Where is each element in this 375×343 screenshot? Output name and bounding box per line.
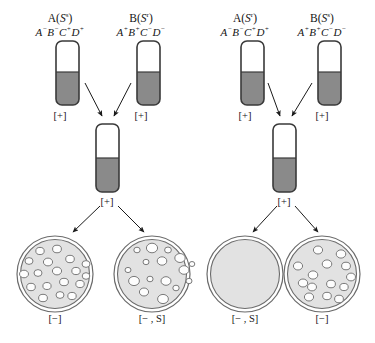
petri-dish-right-1 bbox=[207, 236, 283, 312]
mixing-tube-left bbox=[96, 124, 119, 196]
arrow-right-a-to-mix bbox=[268, 83, 280, 116]
petri-dish-right-2 bbox=[284, 236, 360, 312]
diagram-graphics bbox=[0, 0, 375, 343]
arrow-left-b-to-mix bbox=[114, 83, 131, 116]
culture-tube-right-b bbox=[318, 41, 341, 106]
figure-canvas: A(Ss) A−B−C+D+ B(Sr) A+B+C−D− A(Sr) A−B−… bbox=[0, 0, 375, 343]
mixing-tube-right bbox=[273, 124, 296, 196]
arrow-mix-left-to-plate-1 bbox=[73, 206, 100, 232]
arrow-right-b-to-mix bbox=[292, 83, 312, 116]
culture-tube-left-b bbox=[137, 41, 160, 106]
petri-dish-left-1 bbox=[17, 236, 93, 312]
arrow-mix-right-to-plate-2 bbox=[295, 206, 318, 232]
culture-tube-left-a bbox=[56, 41, 79, 106]
arrow-mix-right-to-plate-1 bbox=[253, 206, 277, 232]
culture-tube-right-a bbox=[241, 41, 264, 106]
arrow-mix-left-to-plate-2 bbox=[118, 206, 144, 232]
arrow-left-a-to-mix bbox=[85, 83, 102, 116]
petri-dish-left-2 bbox=[114, 236, 195, 312]
